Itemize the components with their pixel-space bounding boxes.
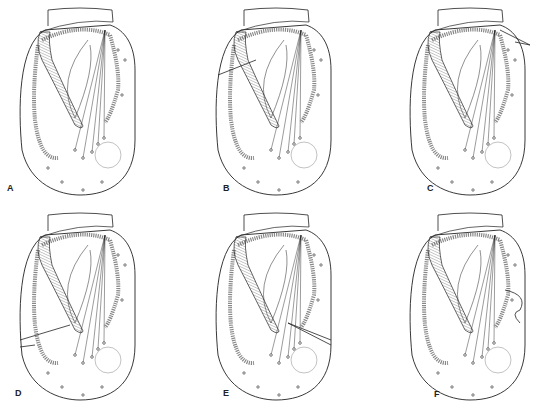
ciliate-cell-drawing [186,0,372,205]
panel-label: F [434,389,440,399]
panel-c: C [372,0,558,205]
ciliate-cell-drawing [186,205,372,410]
ciliate-cell-drawing [372,0,558,205]
panel-b: B [186,0,372,205]
ciliate-cell-drawing [0,0,186,205]
panel-label: D [15,388,22,398]
panel-d: D [0,205,186,410]
ciliate-cell-drawing [372,205,558,410]
panel-a: A [0,0,186,205]
panel-e: E [186,205,372,410]
panel-label: B [223,183,230,193]
ciliate-cell-drawing [0,205,186,410]
panel-label: E [223,388,229,398]
panel-label: C [427,183,434,193]
panel-f: F [372,205,558,410]
panel-label: A [7,183,14,193]
